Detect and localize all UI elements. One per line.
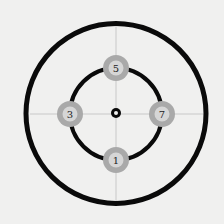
- diagram-canvas: 5 3 7 1: [0, 0, 224, 224]
- node-left[interactable]: 3: [57, 101, 83, 127]
- node-bottom[interactable]: 1: [103, 147, 129, 173]
- node-label: 7: [159, 109, 165, 120]
- node-top[interactable]: 5: [103, 55, 129, 81]
- center-dot-hole: [114, 111, 118, 115]
- ring-diagram: 5 3 7 1: [0, 0, 224, 224]
- node-right[interactable]: 7: [149, 101, 175, 127]
- node-label: 5: [113, 63, 119, 74]
- node-label: 1: [113, 155, 119, 166]
- node-label: 3: [67, 109, 73, 120]
